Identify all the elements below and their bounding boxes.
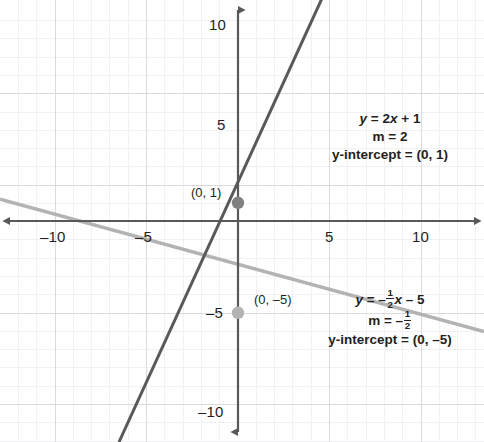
annotation-steep-eq-x: x <box>390 111 398 126</box>
annotation-shallow-slope-denominator: 2 <box>404 321 412 331</box>
annotation-shallow-frac-numerator: 1 <box>386 288 394 299</box>
annotation-shallow-fraction: 12 <box>386 288 394 309</box>
x-tick-label-neg5: –5 <box>135 228 152 245</box>
annotation-steep-equation: y = 2x + 1 <box>310 110 470 128</box>
annotation-line-shallow: y = –12x – 5 m = –12 y-intercept = (0, –… <box>304 288 476 349</box>
point-label-lower-intercept: (0, –5) <box>254 292 292 307</box>
annotation-shallow-equation: y = –12x – 5 <box>304 288 476 309</box>
annotation-shallow-slope-prefix: m = – <box>368 314 403 329</box>
x-tick-label-pos5: 5 <box>325 228 334 245</box>
annotation-shallow-eq-y: y <box>355 292 363 307</box>
point-label-upper-intercept: (0, 1) <box>191 185 221 200</box>
x-tick-label-pos10: 10 <box>412 228 429 245</box>
y-tick-label-pos10: 10 <box>209 16 226 33</box>
coordinate-graph: –10 –5 5 10 10 5 –5 –10 (0, 1) (0, –5) y… <box>0 0 484 442</box>
annotation-shallow-slope-fraction: 12 <box>404 309 412 330</box>
annotation-shallow-eq-tail: – 5 <box>406 292 425 307</box>
y-tick-label-neg10: –10 <box>198 403 224 420</box>
annotation-shallow-slope: m = –12 <box>304 309 476 330</box>
y-tick-label-pos5: 5 <box>217 116 226 133</box>
graph-canvas <box>0 0 484 442</box>
annotation-steep-eq-op: = 2 <box>371 111 390 126</box>
y-tick-label-neg5: –5 <box>206 304 223 321</box>
annotation-shallow-eq-x: x <box>395 292 403 307</box>
x-tick-label-neg10: –10 <box>40 228 66 245</box>
annotation-shallow-slope-numerator: 1 <box>404 309 412 320</box>
annotation-shallow-frac-denominator: 2 <box>386 299 394 309</box>
annotation-steep-intercept: y-intercept = (0, 1) <box>310 146 470 164</box>
marker-point-0-1 <box>232 197 244 209</box>
annotation-shallow-eq-op: = – <box>367 292 386 307</box>
annotation-steep-eq-y: y <box>360 111 368 126</box>
annotation-line-steep: y = 2x + 1 m = 2 y-intercept = (0, 1) <box>310 110 470 163</box>
annotation-steep-slope: m = 2 <box>310 128 470 146</box>
annotation-shallow-intercept: y-intercept = (0, –5) <box>304 331 476 349</box>
marker-point-0-neg5 <box>232 307 244 319</box>
annotation-steep-eq-tail: + 1 <box>401 111 420 126</box>
